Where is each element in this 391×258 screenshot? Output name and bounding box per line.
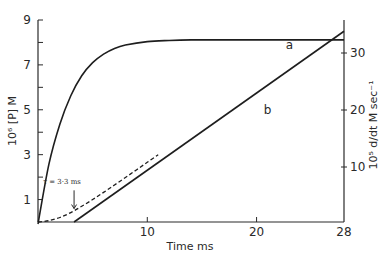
y-left-tick-label: 7 — [23, 58, 31, 72]
series-b-transient — [38, 155, 158, 222]
series-group — [38, 31, 344, 224]
axes — [38, 20, 344, 222]
y-left-tick-label: 5 — [23, 103, 31, 117]
x-tick-label: 10 — [140, 225, 155, 239]
y-left-tick-label: 9 — [23, 13, 31, 27]
chart: 13579102028102030 Time ms10⁶ [P] M10⁵ d/… — [0, 0, 391, 258]
y-right-tick-label: 10 — [350, 160, 365, 174]
y-axis-left-title: 10⁶ [P] M — [6, 96, 19, 146]
tau-annotation: τ = 3·3 ms — [43, 178, 81, 186]
x-axis-title: Time ms — [166, 240, 214, 253]
y-axis-right-title: 10⁵ d/dt M sec⁻¹ — [367, 80, 380, 169]
labels-group: Time ms10⁶ [P] M10⁵ d/dt M sec⁻¹abτ = 3·… — [6, 38, 380, 253]
curve-label-b: b — [264, 103, 272, 117]
y-right-tick-label: 30 — [350, 46, 365, 60]
curve-label-a: a — [286, 38, 293, 52]
x-tick-label: 20 — [249, 225, 264, 239]
series-a — [38, 40, 344, 224]
y-right-tick-label: 20 — [350, 103, 365, 117]
series-b — [74, 31, 344, 222]
y-left-tick-label: 1 — [23, 193, 31, 207]
x-tick-label: 28 — [336, 225, 351, 239]
ticks: 13579102028102030 — [23, 13, 365, 239]
y-left-tick-label: 3 — [23, 148, 31, 162]
